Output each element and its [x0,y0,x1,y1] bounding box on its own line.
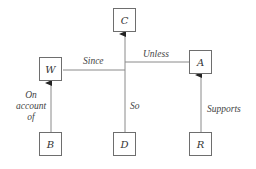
node-reason: R [189,132,212,156]
node-backing: B [39,132,62,156]
node-warrant: W [39,57,62,81]
node-label: B [47,139,54,150]
edge-label-so: So [130,101,140,111]
edge-label-unless: Unless [143,49,169,59]
edge-label-supports: Supports [207,104,241,114]
node-data: D [113,132,136,156]
node-label: A [197,57,204,68]
node-claim: C [113,8,136,32]
node-label: W [45,64,55,75]
edge-label-since: Since [83,56,104,66]
node-label: D [120,139,128,150]
node-label: R [197,139,205,150]
node-rebuttal: A [189,50,212,74]
edge-label-on-account-of: On account of [15,90,47,123]
node-label: C [121,15,129,26]
